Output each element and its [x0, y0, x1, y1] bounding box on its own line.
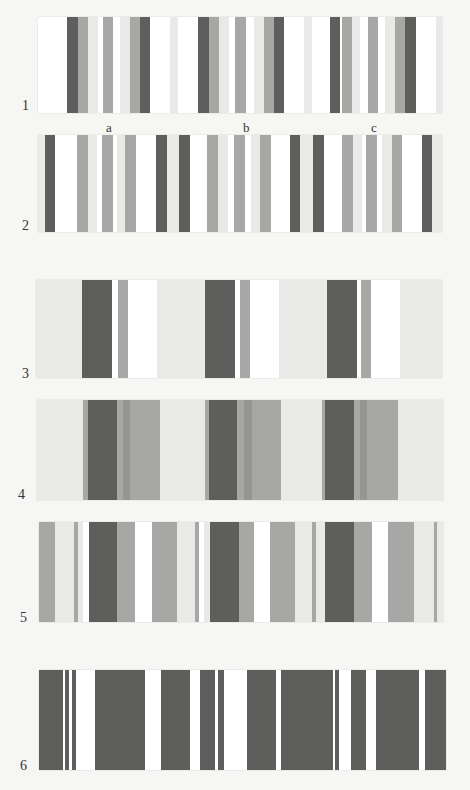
stripe-dark: [425, 670, 446, 770]
stripe-light: [279, 280, 327, 378]
stripe-dark: [422, 135, 432, 232]
stripe-mid: [368, 17, 378, 113]
panel-number-label: 5: [20, 610, 27, 626]
stripe-mid: [234, 135, 245, 232]
stripe-mid: [270, 522, 295, 622]
stripe-light: [251, 135, 260, 232]
stripe-white: [360, 17, 368, 113]
stripe-mid2: [244, 400, 252, 500]
stripe-white: [190, 670, 200, 770]
stripe-mid: [130, 400, 160, 500]
stripe-mid: [103, 17, 113, 113]
stripe-white: [246, 17, 254, 113]
stripe-white: [178, 17, 198, 113]
stripe-mid: [342, 17, 352, 113]
stripe-dark: [140, 17, 150, 113]
stripe-dark: [39, 670, 63, 770]
stripe-white: [136, 135, 156, 232]
panel-number-label: 4: [18, 487, 25, 503]
stripe-mid: [388, 522, 414, 622]
stripe-white: [190, 135, 207, 232]
stripe-dark: [198, 17, 209, 113]
stripe-white: [254, 522, 270, 622]
stripe-white: [416, 17, 436, 113]
stripe-dark: [351, 670, 366, 770]
stripe-mid: [77, 135, 88, 232]
stripe-light: [436, 17, 442, 113]
panel-number-label: 1: [22, 98, 29, 114]
stripe-white: [371, 280, 400, 378]
stripe-dark: [200, 670, 215, 770]
stripe-light: [352, 17, 360, 113]
stripe-white: [113, 17, 120, 113]
stripe-mid: [102, 135, 113, 232]
stripe-dark: [156, 135, 167, 232]
stripe-light: [300, 135, 313, 232]
stripe-white: [38, 17, 67, 113]
stripe-light: [398, 400, 443, 500]
stripe-mid: [367, 400, 398, 500]
stripe-mid: [152, 522, 177, 622]
stripe-white: [339, 670, 351, 770]
stripe-light: [157, 280, 205, 378]
stripe-dark: [82, 280, 112, 378]
stripe-dark: [405, 17, 416, 113]
stripe-mid: [237, 400, 244, 500]
stripe-light: [432, 135, 442, 232]
stripe-white: [366, 670, 376, 770]
stripe-dark: [45, 135, 55, 232]
stripe-light: [400, 280, 442, 378]
stripe-mid: [130, 17, 140, 113]
stripe-light: [353, 135, 362, 232]
stripe-light: [88, 17, 98, 113]
stripe-dark: [67, 17, 78, 113]
stripe-panel-4: [37, 400, 443, 500]
stripe-dark: [327, 280, 357, 378]
stripe-light: [414, 522, 434, 622]
stripe-mid: [125, 135, 136, 232]
stripe-light: [219, 17, 229, 113]
stripe-white: [76, 670, 95, 770]
stripe-mid2: [123, 400, 130, 500]
stripe-dark: [281, 670, 333, 770]
stripe-white: [145, 670, 161, 770]
stripe-mid: [264, 17, 274, 113]
stripe-light: [167, 135, 179, 232]
stripe-mid2: [360, 400, 367, 500]
stripe-mid: [366, 135, 377, 232]
stripe-dark: [290, 135, 300, 232]
stripe-light: [88, 135, 97, 232]
stripe-mid: [118, 280, 128, 378]
stripe-mid: [354, 522, 372, 622]
stripe-mid: [361, 280, 371, 378]
stripe-mid: [395, 17, 405, 113]
stripe-white: [224, 670, 247, 770]
stripe-white: [312, 17, 330, 113]
stripe-dark: [209, 400, 237, 500]
stripe-light: [281, 400, 322, 500]
stripe-dark: [95, 670, 145, 770]
stripe-light: [385, 17, 395, 113]
stripe-dark: [88, 400, 117, 500]
panel-number-label: 3: [22, 366, 29, 382]
stripe-white: [55, 135, 77, 232]
stripe-mid: [260, 135, 271, 232]
stripe-light: [254, 17, 264, 113]
stripe-dark: [313, 135, 324, 232]
stripe-mid: [78, 17, 88, 113]
stripe-white: [128, 280, 157, 378]
stripe-light: [382, 135, 392, 232]
stripe-light: [295, 522, 312, 622]
stripe-dark: [89, 522, 117, 622]
stripe-white: [150, 17, 170, 113]
stripe-white: [324, 135, 342, 232]
stripe-mid: [209, 17, 219, 113]
stripe-light: [160, 400, 205, 500]
stripe-light: [38, 135, 45, 232]
group-label-c: c: [371, 120, 377, 136]
stripe-dark: [325, 522, 354, 622]
group-label-b: b: [243, 120, 250, 136]
stripe-dark: [205, 280, 235, 378]
stripe-panel-3: [36, 280, 442, 378]
stripe-white: [402, 135, 422, 232]
